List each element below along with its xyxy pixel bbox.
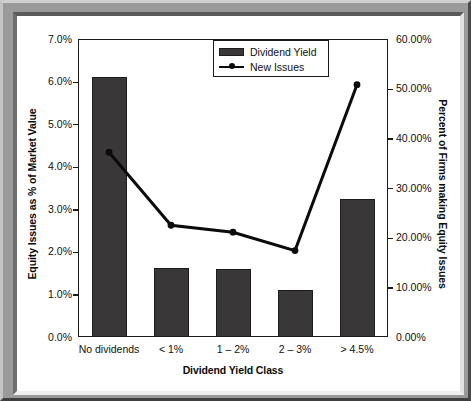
legend-item-dividend-yield: Dividend Yield: [219, 44, 324, 59]
x-category-label: > 4.5%: [312, 343, 402, 355]
chart-canvas: Equity Issues as % of Market Value Perce…: [0, 0, 471, 401]
new-issues-polyline: [109, 85, 357, 251]
legend-item-new-issues: New Issues: [219, 59, 324, 74]
right-tick-label: 10.00%: [396, 282, 448, 293]
line-marker: [354, 81, 361, 88]
legend: Dividend Yield New Issues: [213, 40, 329, 77]
left-tick-label: 5.0%: [24, 119, 72, 130]
left-tick-label: 1.0%: [24, 289, 72, 300]
line-marker: [292, 247, 299, 254]
line-marker: [168, 222, 175, 229]
legend-label-new-issues: New Issues: [250, 61, 304, 73]
line-series-new-issues: [78, 39, 388, 337]
left-tick-label: 4.0%: [24, 161, 72, 172]
left-tick-label: 2.0%: [24, 246, 72, 257]
right-tick-label: 20.00%: [396, 232, 448, 243]
right-tick-label: 0.00%: [396, 332, 448, 343]
bar-swatch-icon: [219, 48, 244, 56]
line-swatch-icon: [219, 62, 244, 71]
right-tick-label: 60.00%: [396, 34, 448, 45]
new-issues-markers: [106, 81, 361, 254]
right-tick-label: 30.00%: [396, 183, 448, 194]
right-tick-label: 40.00%: [396, 133, 448, 144]
left-tick-label: 7.0%: [24, 34, 72, 45]
right-tick-label: 50.00%: [396, 83, 448, 94]
left-tick-label: 0.0%: [24, 332, 72, 343]
legend-label-dividend-yield: Dividend Yield: [250, 46, 317, 58]
line-marker: [230, 229, 237, 236]
line-marker: [106, 149, 113, 156]
left-tick-label: 6.0%: [24, 76, 72, 87]
x-axis-title: Dividend Yield Class: [78, 364, 388, 376]
left-tick-label: 3.0%: [24, 204, 72, 215]
